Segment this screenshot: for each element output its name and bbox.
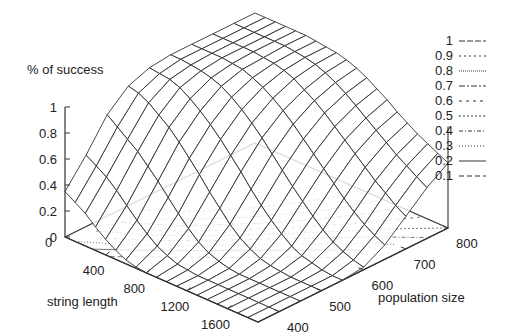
x-tick (106, 252, 110, 255)
legend-label: 0.8 (435, 63, 453, 78)
legend-label: 0.6 (435, 93, 453, 108)
legend-label: 0.2 (435, 153, 453, 168)
x-tick-label: 400 (83, 263, 105, 278)
legend-label: 0.9 (435, 48, 453, 63)
y-tick (401, 247, 406, 249)
z-tick-label: 0.8 (39, 126, 57, 141)
legend: 10.90.80.70.60.50.40.30.20.1 (435, 33, 486, 183)
x-tick-label: 1200 (160, 299, 189, 314)
z-tick-label: 1 (50, 100, 57, 115)
legend-label: 1 (446, 33, 453, 48)
y-axis-label: population size (378, 290, 465, 305)
legend-label: 0.7 (435, 78, 453, 93)
x-tick-label: 800 (123, 281, 145, 296)
z-axis-label: % of success (27, 62, 104, 77)
y-tick-label: 500 (329, 299, 351, 314)
legend-label: 0.1 (435, 168, 453, 183)
x-axis-label: string length (47, 294, 118, 309)
z-tick-label: 0.6 (39, 152, 57, 167)
legend-label: 0.5 (435, 108, 453, 123)
y-tick-label: 700 (414, 257, 436, 272)
surface-plot: 00.20.40.60.8104008001200160040050060070… (0, 0, 507, 334)
legend-label: 0.3 (435, 138, 453, 153)
x-tick-label: 1600 (201, 317, 230, 332)
surface-mesh (65, 13, 448, 322)
x-origin-label: 0 (45, 235, 52, 250)
legend-label: 0.4 (435, 123, 453, 138)
y-tick-label: 400 (287, 320, 309, 334)
z-tick-label: 0.2 (39, 204, 57, 219)
y-tick-label: 800 (456, 236, 478, 251)
z-tick-label: 0.4 (39, 178, 57, 193)
